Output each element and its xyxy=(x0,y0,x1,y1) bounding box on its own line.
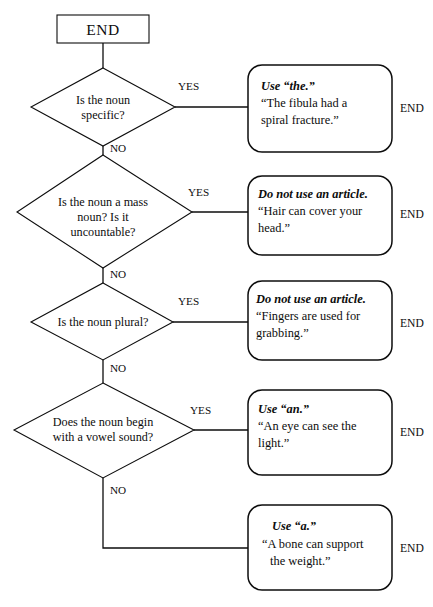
outcome-1-example-line-1: “The fibula had a xyxy=(261,96,348,110)
outcome-node-3: Do not use an article. “Fingers are used… xyxy=(248,281,424,360)
outcome-node-1: Use “the.” “The fibula had a spiral frac… xyxy=(248,65,424,152)
decision-1-line-1: Is the noun xyxy=(76,93,130,107)
outcome-1-example-line-2: spiral fracture.” xyxy=(261,113,339,127)
outcome-3-example-line-1: “Fingers are used for xyxy=(256,309,361,323)
outcome-4-example-line-1: “An eye can see the xyxy=(258,419,357,433)
outcome-node-5: Use “a.” “A bone can support the weight.… xyxy=(248,505,424,590)
outcome-4-rule: Use “an.” xyxy=(258,402,309,416)
flowchart-diagram: END Is the noun specific? YES NO Use “th… xyxy=(0,0,433,607)
branch-label-no-2: NO xyxy=(110,268,126,280)
outcome-5-rule: Use “a.” xyxy=(272,519,316,533)
outcome-3-rule: Do not use an article. xyxy=(255,292,366,306)
outcome-5-example-line-2: the weight.” xyxy=(270,554,331,568)
end-label-5: END xyxy=(400,542,424,555)
outcome-node-4: Use “an.” “An eye can see the light.” EN… xyxy=(248,390,424,475)
outcome-4-example-line-2: light.” xyxy=(258,436,289,450)
outcome-5-example-line-1: “A bone can support xyxy=(262,537,364,551)
decision-node-3: Is the noun plural? xyxy=(31,283,173,360)
outcome-node-2: Do not use an article. “Hair can cover y… xyxy=(248,176,424,255)
flowchart-canvas: END Is the noun specific? YES NO Use “th… xyxy=(0,0,433,607)
decision-2-line-2: noun? Is it xyxy=(77,210,129,224)
outcome-2-example-line-1: “Hair can cover your xyxy=(258,204,363,218)
decision-4-line-1: Does the noun begin xyxy=(53,415,154,429)
decision-2-line-3: uncountable? xyxy=(71,225,136,239)
decision-node-2: Is the noun a mass noun? Is it uncountab… xyxy=(17,155,192,268)
outcome-3-example-line-2: grabbing.” xyxy=(256,326,309,340)
start-node: END xyxy=(57,15,149,43)
end-label-4: END xyxy=(400,426,424,439)
decision-3-line-1: Is the noun plural? xyxy=(57,315,148,329)
decision-4-line-2: with a vowel sound? xyxy=(53,430,154,444)
decision-node-4: Does the noun begin with a vowel sound? xyxy=(14,383,194,478)
end-label-3: END xyxy=(400,317,424,330)
branch-label-yes-1: YES xyxy=(178,80,199,92)
end-label-2: END xyxy=(400,208,424,221)
start-label: END xyxy=(86,21,120,38)
decision-1-line-2: specific? xyxy=(81,108,124,122)
branch-label-no-1: NO xyxy=(110,142,126,154)
branch-label-no-3: NO xyxy=(110,362,126,374)
branch-label-yes-3: YES xyxy=(178,295,199,307)
end-label-1: END xyxy=(400,102,424,115)
branch-label-no-4: NO xyxy=(110,484,126,496)
decision-2-line-1: Is the noun a mass xyxy=(58,195,148,209)
branch-label-yes-2: YES xyxy=(188,186,209,198)
decision-node-1: Is the noun specific? xyxy=(31,68,175,146)
branch-label-yes-4: YES xyxy=(190,404,211,416)
outcome-1-rule: Use “the.” xyxy=(261,79,315,93)
decision-diamond-1 xyxy=(31,68,175,146)
outcome-2-example-line-2: head.” xyxy=(258,221,290,235)
outcome-2-rule: Do not use an article. xyxy=(257,187,368,201)
